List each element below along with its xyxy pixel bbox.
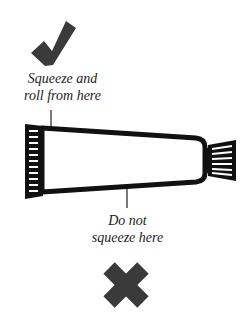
check-mark-icon	[31, 21, 76, 66]
bad-label-line1: Do not	[70, 212, 185, 229]
bad-label: Do not squeeze here	[70, 212, 185, 246]
good-label-line2: roll from here	[5, 87, 120, 104]
cross-mark-icon	[92, 251, 160, 319]
good-label-line1: Squeeze and	[5, 70, 120, 87]
toothpaste-tube	[25, 124, 236, 199]
bad-label-line2: squeeze here	[70, 229, 185, 246]
diagram-canvas	[0, 0, 251, 326]
good-label: Squeeze and roll from here	[5, 70, 120, 104]
